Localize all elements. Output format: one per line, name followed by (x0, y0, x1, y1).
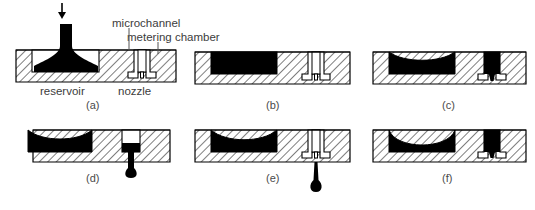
panel-d-diagram (30, 128, 195, 190)
microfluidic-dispenser-figure: microchannel metering chamber reservoir … (0, 0, 535, 210)
panel-label-a: (a) (86, 99, 99, 111)
panel-label-d: (d) (86, 172, 99, 184)
panel-label-c: (c) (442, 99, 455, 111)
panel-label-e: (e) (266, 172, 279, 184)
panel-b (192, 50, 357, 90)
callout-nozzle: nozzle (118, 85, 151, 97)
panel-label-b: (b) (266, 99, 279, 111)
callout-reservoir: reservoir (40, 85, 85, 97)
panel-c-diagram (370, 50, 532, 90)
panel-f (370, 128, 532, 173)
panel-e (192, 128, 367, 200)
panel-f-diagram (370, 128, 532, 173)
inlet-arrow-icon (52, 2, 72, 22)
callout-leader-lines (108, 28, 168, 54)
panel-label-f: (f) (442, 172, 452, 184)
panel-d (30, 128, 195, 190)
panel-e-diagram (192, 128, 367, 200)
liquid-inlet-column (34, 24, 98, 72)
panel-c (370, 50, 532, 90)
panel-b-diagram (192, 50, 357, 90)
